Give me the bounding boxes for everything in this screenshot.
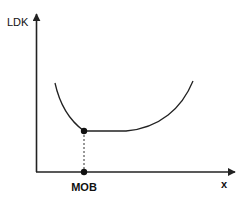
curve-minimum-point [81,128,87,134]
mob-point [81,169,87,175]
y-axis-label: LDK [7,16,29,28]
cost-curve [55,81,193,131]
diagram-canvas: LDK x MOB [0,0,244,200]
mob-label: MOB [71,181,97,193]
x-axis-label: x [221,178,228,190]
